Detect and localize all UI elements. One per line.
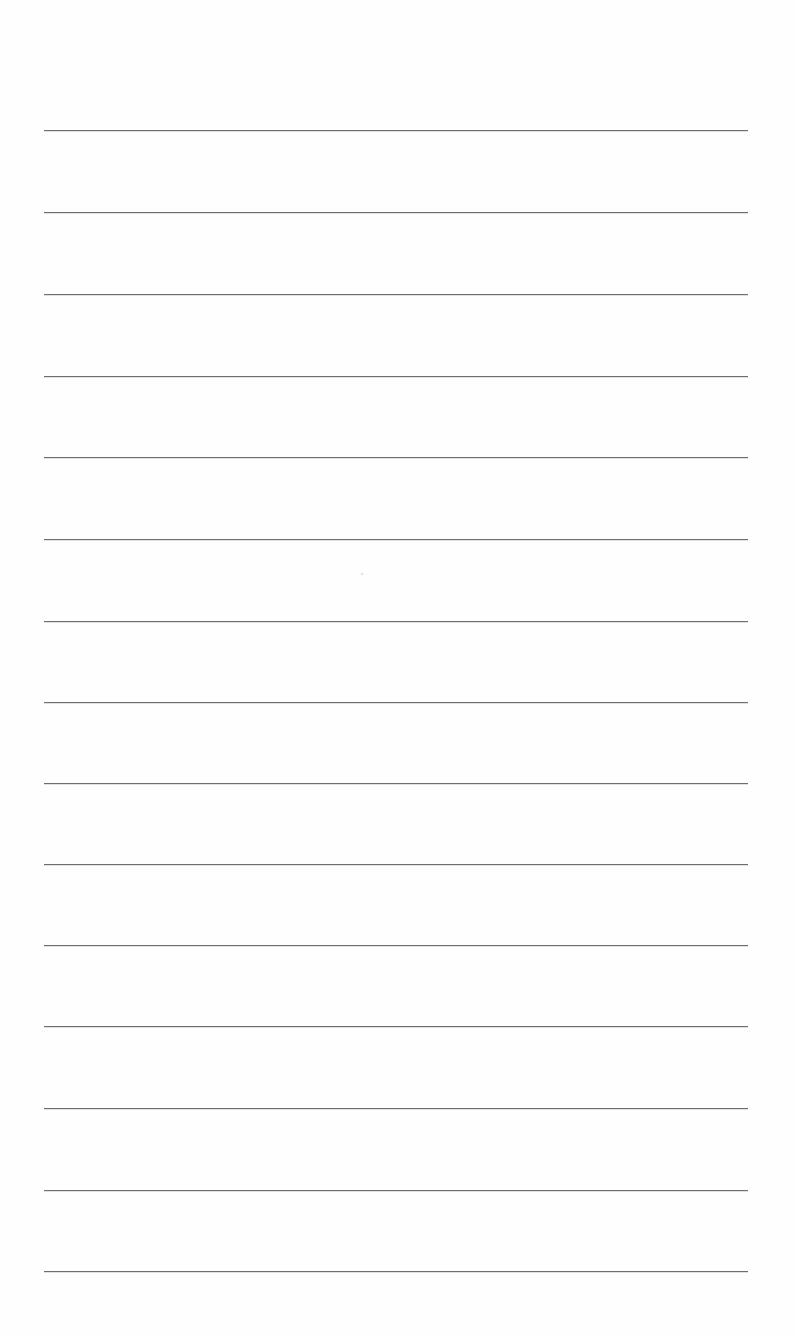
ruled-line-13 [44,1108,748,1109]
lined-paper-page [0,0,795,1336]
ruled-line-4 [44,376,748,377]
ruled-line-1 [44,130,748,131]
paper-speck [361,573,363,575]
ruled-line-12 [44,1026,748,1027]
ruled-line-7 [44,621,748,622]
ruled-line-15 [44,1271,748,1272]
ruled-line-9 [44,783,748,784]
ruled-line-11 [44,945,748,946]
ruled-line-2 [44,212,748,213]
ruled-line-8 [44,702,748,703]
ruled-line-5 [44,457,748,458]
ruled-line-6 [44,539,748,540]
ruled-line-10 [44,864,748,865]
ruled-line-3 [44,294,748,295]
ruled-line-14 [44,1190,748,1191]
